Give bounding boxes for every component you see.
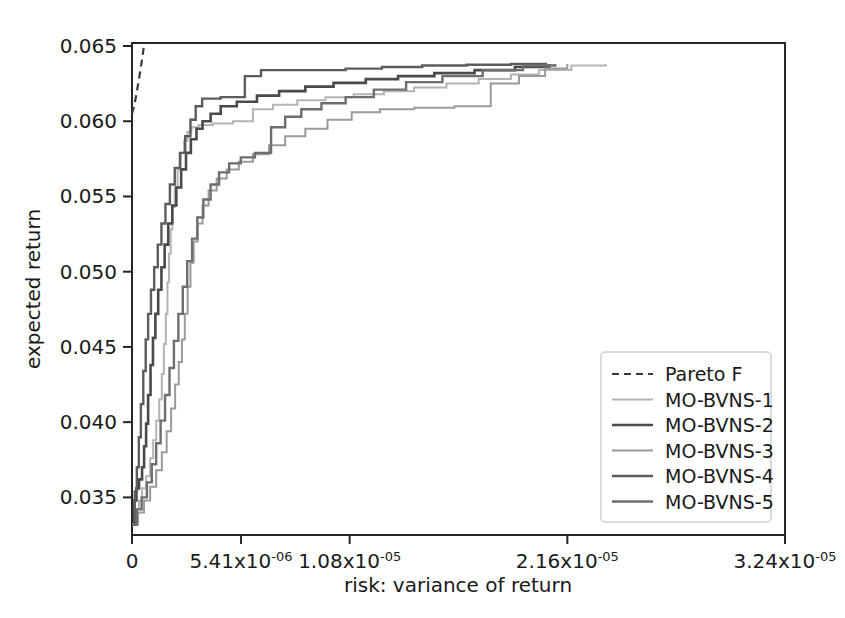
- legend-label-mo-bvns-5[interactable]: MO-BVNS-5: [665, 491, 774, 513]
- chart-figure: 0.0350.0400.0450.0500.0550.0600.065 05.4…: [0, 0, 845, 618]
- y-tick-label: 0.040: [60, 410, 117, 434]
- legend-label-mo-bvns-3[interactable]: MO-BVNS-3: [665, 440, 774, 462]
- x-tick-label: 0: [126, 549, 139, 573]
- legend-label-mo-bvns-1[interactable]: MO-BVNS-1: [665, 389, 774, 411]
- y-tick-label: 0.065: [60, 34, 117, 58]
- y-axis-label: expected return: [21, 209, 45, 369]
- y-tick-label: 0.055: [60, 184, 117, 208]
- line-chart: 0.0350.0400.0450.0500.0550.0600.065 05.4…: [0, 0, 845, 618]
- y-tick-label: 0.050: [60, 260, 117, 284]
- legend-label-mo-bvns-4[interactable]: MO-BVNS-4: [665, 465, 774, 487]
- y-tick-label: 0.060: [60, 109, 117, 133]
- x-axis-label: risk: variance of return: [344, 573, 572, 597]
- chart-background: [0, 0, 845, 618]
- y-tick-label: 0.045: [60, 335, 117, 359]
- legend-label-mo-bvns-2[interactable]: MO-BVNS-2: [665, 414, 774, 436]
- y-tick-label: 0.035: [60, 485, 117, 509]
- chart-legend[interactable]: Pareto FMO-BVNS-1MO-BVNS-2MO-BVNS-3MO-BV…: [601, 352, 774, 522]
- legend-label-pareto-f[interactable]: Pareto F: [665, 363, 742, 385]
